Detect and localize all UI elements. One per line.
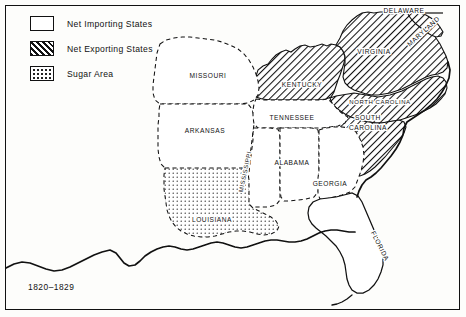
- legend-item-net-exporting: Net Exporting States: [30, 37, 210, 60]
- hatched-swatch-icon: [30, 41, 54, 56]
- map-legend: Net Importing States Net Exporting State…: [30, 12, 210, 87]
- dotted-swatch-icon: [30, 66, 54, 81]
- map-date-caption: 1820–1829: [28, 282, 74, 292]
- legend-item-sugar-area: Sugar Area: [30, 62, 210, 85]
- empty-swatch-icon: [30, 16, 54, 31]
- map-figure: MISSOURIARKANSASTENNESSEEKENTUCKYVIRGINI…: [0, 0, 466, 317]
- legend-item-net-importing: Net Importing States: [30, 12, 210, 35]
- legend-label-sugar-area: Sugar Area: [67, 69, 114, 79]
- legend-label-net-exporting: Net Exporting States: [67, 44, 153, 54]
- legend-label-net-importing: Net Importing States: [67, 19, 152, 29]
